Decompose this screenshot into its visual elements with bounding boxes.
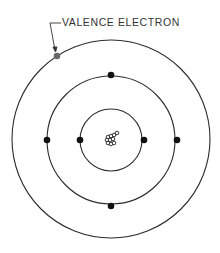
leader-line — [50, 23, 61, 52]
electron — [141, 137, 148, 144]
valence-electron — [54, 53, 61, 60]
electron — [44, 137, 51, 144]
nucleus — [105, 131, 119, 146]
electron — [108, 203, 115, 210]
electron — [77, 137, 84, 144]
electron — [108, 72, 115, 79]
atom-diagram — [0, 0, 220, 253]
electron — [174, 137, 181, 144]
valence-electron-label: VALENCE ELECTRON — [62, 16, 180, 28]
